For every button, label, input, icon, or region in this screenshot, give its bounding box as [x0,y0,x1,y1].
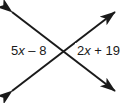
right-angle-constant: 19 [106,43,120,58]
right-angle-operator: + [94,43,102,58]
left-angle-variable: x [18,43,25,58]
right-angle-variable: x [84,43,91,58]
left-angle-operator: – [28,43,35,58]
vertical-angles-figure: 5x – 8 2x + 19 [0,0,127,103]
left-angle-constant: 8 [39,43,46,58]
right-angle-label: 2x + 19 [75,43,122,59]
left-angle-label: 5x – 8 [9,43,48,59]
